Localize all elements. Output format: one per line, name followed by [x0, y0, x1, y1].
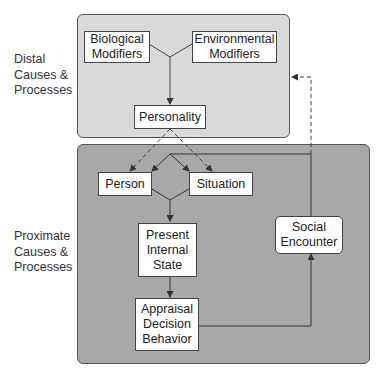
node-personality: Personality: [134, 105, 206, 129]
node-appraisal-decision-behavior: Appraisal Decision Behavior: [135, 298, 199, 351]
node-biological-modifiers: Biological Modifiers: [84, 31, 150, 63]
feedback-dashed-arrow: [292, 77, 311, 154]
personality-dashed-arrows: [130, 129, 212, 171]
node-person: Person: [98, 172, 152, 196]
node-social-encounter: Social Encounter: [275, 216, 343, 254]
modifiers-connector: [149, 44, 192, 104]
node-environmental-modifiers: Environmental Modifiers: [192, 31, 277, 63]
node-present-internal-state: Present Internal State: [138, 223, 197, 277]
node-situation: Situation: [189, 172, 253, 196]
